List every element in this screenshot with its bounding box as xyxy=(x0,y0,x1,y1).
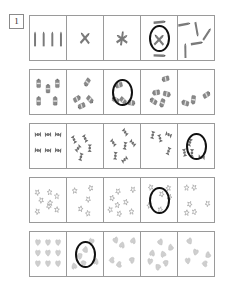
worksheet-row-batteries xyxy=(29,69,215,115)
battery-group-icon xyxy=(178,70,214,114)
picture-cell[interactable] xyxy=(104,232,141,276)
bowtie-group-icon xyxy=(67,124,103,168)
picture-cell[interactable] xyxy=(30,16,67,60)
picture-cell[interactable] xyxy=(141,178,178,222)
picture-cell[interactable] xyxy=(141,70,178,114)
picture-cell[interactable] xyxy=(141,124,178,168)
battery-group-icon xyxy=(141,70,177,114)
worksheet-row-pencils xyxy=(29,15,215,61)
picture-cell[interactable] xyxy=(178,16,214,60)
picture-cell[interactable] xyxy=(30,232,67,276)
picture-cell[interactable] xyxy=(178,70,214,114)
picture-cell[interactable] xyxy=(104,70,141,114)
picture-cell[interactable] xyxy=(67,232,104,276)
picture-cell[interactable] xyxy=(178,124,214,168)
worksheet-row-bowties xyxy=(29,123,215,169)
worksheet-row-hearts xyxy=(29,231,215,277)
star-group-icon xyxy=(67,178,103,222)
star-group-icon xyxy=(178,178,214,222)
picture-cell[interactable] xyxy=(104,16,141,60)
heart-group-icon xyxy=(30,232,66,276)
worksheet-page: 1 xyxy=(0,0,229,293)
picture-cell[interactable] xyxy=(178,178,214,222)
heart-group-icon xyxy=(104,232,140,276)
bowtie-group-icon xyxy=(30,124,66,168)
picture-cell[interactable] xyxy=(67,16,104,60)
picture-cell[interactable] xyxy=(178,232,214,276)
picture-cell[interactable] xyxy=(67,178,104,222)
bowtie-group-icon xyxy=(141,124,177,168)
pencil-group-icon xyxy=(104,16,140,60)
picture-cell[interactable] xyxy=(104,178,141,222)
pencil-group-icon xyxy=(141,16,177,60)
bowtie-group-icon xyxy=(178,124,214,168)
picture-cell[interactable] xyxy=(104,124,141,168)
bowtie-group-icon xyxy=(104,124,140,168)
battery-group-icon xyxy=(67,70,103,114)
star-group-icon xyxy=(141,178,177,222)
battery-group-icon xyxy=(104,70,140,114)
battery-group-icon xyxy=(30,70,66,114)
heart-group-icon xyxy=(178,232,214,276)
picture-cell[interactable] xyxy=(141,16,178,60)
picture-cell[interactable] xyxy=(141,232,178,276)
picture-cell[interactable] xyxy=(30,70,67,114)
exercise-number: 1 xyxy=(14,17,19,26)
picture-cell[interactable] xyxy=(67,124,104,168)
pencil-group-icon xyxy=(30,16,66,60)
star-group-icon xyxy=(30,178,66,222)
exercise-number-box: 1 xyxy=(9,14,24,29)
star-group-icon xyxy=(104,178,140,222)
picture-cell[interactable] xyxy=(67,70,104,114)
heart-group-icon xyxy=(141,232,177,276)
heart-group-icon xyxy=(67,232,103,276)
pencil-group-icon xyxy=(67,16,103,60)
picture-cell[interactable] xyxy=(30,178,67,222)
pencil-group-icon xyxy=(178,16,214,60)
worksheet-row-stars xyxy=(29,177,215,223)
picture-cell[interactable] xyxy=(30,124,67,168)
